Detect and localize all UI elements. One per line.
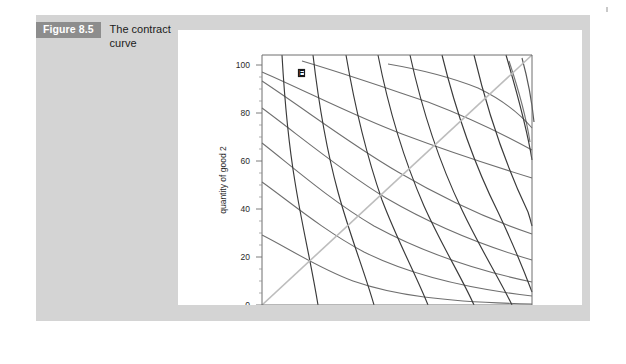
y-axis-tick-labels: 0 20 40 60 80 100 (236, 60, 250, 305)
y-tick-label: 100 (236, 60, 250, 70)
y-tick-label: 60 (241, 156, 251, 166)
chart-card: E (178, 30, 582, 305)
endowment-point-E: E (298, 68, 304, 78)
y-tick-label: 20 (241, 252, 251, 262)
contract-curve-chart: E (178, 30, 582, 305)
y-tick-label: 40 (241, 204, 251, 214)
y-axis-ticks (256, 65, 262, 305)
y-tick-label: 0 (245, 300, 250, 305)
page-corner-speck (606, 7, 608, 12)
point-label-E: E (298, 68, 304, 78)
y-tick-label: 80 (241, 108, 251, 118)
figure-panel: Figure 8.5The contract curve (36, 15, 590, 321)
y-axis-label: quantity of good 2 (218, 146, 228, 214)
figure-number-tag: Figure 8.5 (36, 22, 101, 38)
